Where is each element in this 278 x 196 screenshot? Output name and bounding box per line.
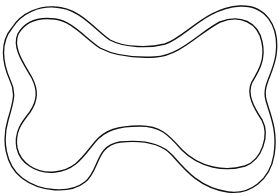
bone-outline-icon <box>0 0 278 196</box>
bone-inner-outline <box>16 18 265 172</box>
drawing-canvas <box>0 0 278 196</box>
